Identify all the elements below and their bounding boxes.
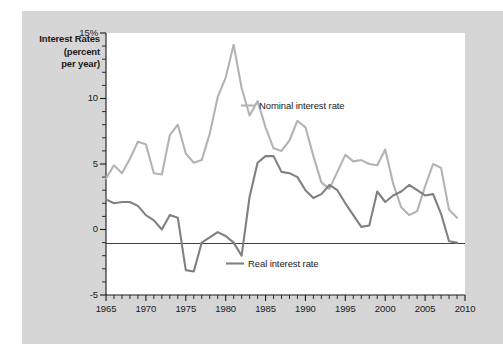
legend-label-real: Real interest rate	[248, 258, 319, 269]
x-axis-tick-label: 1985	[246, 303, 286, 314]
y-axis-title-line-2: (percent	[24, 46, 100, 59]
x-axis-tick-label: 1995	[325, 303, 365, 314]
legend-label-nominal: Nominal interest rate	[259, 100, 345, 111]
y-axis-tick-label: 0	[58, 223, 98, 234]
x-axis-tick-label: 1980	[206, 303, 246, 314]
x-axis-tick-label: 1970	[126, 303, 166, 314]
y-axis-title-line-3: per year)	[24, 58, 100, 71]
x-axis-tick-label: 2000	[365, 303, 405, 314]
series-line-nominal-interest-rate	[106, 45, 457, 218]
x-axis-tick-label: 2005	[405, 303, 445, 314]
y-axis-tick-label: 10	[58, 92, 98, 103]
y-axis-tick-label: 15%	[58, 27, 98, 38]
y-axis-tick-label: 5	[58, 158, 98, 169]
x-axis-tick-label: 2010	[445, 303, 485, 314]
x-axis-tick-label: 1975	[166, 303, 206, 314]
x-axis-tick-label: 1965	[86, 303, 126, 314]
figure-container: Interest Rates (percent per year) 15%105…	[0, 0, 503, 344]
x-axis-tick-label: 1990	[285, 303, 325, 314]
y-axis-tick-label: -5	[58, 289, 98, 300]
y-axis-title: Interest Rates (percent per year)	[24, 33, 100, 71]
